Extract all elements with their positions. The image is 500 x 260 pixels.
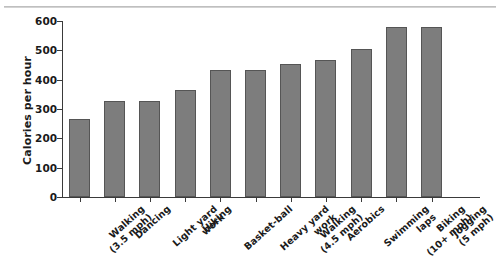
x-tick-mark — [256, 198, 257, 202]
bar — [421, 27, 442, 197]
bar — [139, 101, 160, 197]
x-tick-mark — [185, 198, 186, 202]
x-tick-mark — [80, 198, 81, 202]
bar-chart: Calories per hour 0100200300400500600 Wa… — [0, 0, 500, 260]
x-tick-mark — [396, 198, 397, 202]
x-tick-mark — [326, 198, 327, 202]
x-tick-mark — [291, 198, 292, 202]
bar — [351, 49, 372, 197]
bar — [69, 119, 90, 197]
x-tick-mark — [361, 198, 362, 202]
bar — [386, 27, 407, 197]
bar — [104, 101, 125, 197]
bar — [210, 70, 231, 197]
x-tick-mark — [150, 198, 151, 202]
bar — [175, 90, 196, 197]
x-tick-mark — [220, 198, 221, 202]
bar — [245, 70, 266, 197]
x-tick-mark — [115, 198, 116, 202]
bar — [315, 60, 336, 197]
bar — [280, 64, 301, 197]
x-tick-mark — [432, 198, 433, 202]
